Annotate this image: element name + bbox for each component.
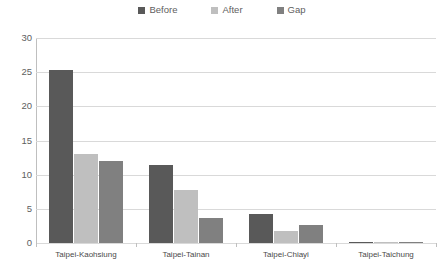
legend-label-before: Before (149, 5, 177, 15)
legend-label-gap: Gap (288, 5, 306, 15)
x-tick-mark (36, 243, 37, 247)
bar-after[interactable] (74, 154, 98, 243)
bar-gap[interactable] (399, 242, 423, 243)
bar-group (236, 38, 336, 243)
y-tick-label: 25 (6, 67, 32, 77)
legend-item-before[interactable]: Before (138, 5, 177, 15)
bar-before[interactable] (49, 70, 73, 243)
plot-area (36, 38, 436, 243)
y-tick-label: 0 (6, 238, 32, 248)
y-axis-labels: 302520151050 (0, 0, 32, 277)
chart-legend: Before After Gap (0, 2, 444, 18)
bar-group (36, 38, 136, 243)
y-tick-label: 10 (6, 170, 32, 180)
bar-before[interactable] (249, 214, 273, 243)
x-tick-mark (336, 243, 337, 247)
legend-item-after[interactable]: After (211, 5, 242, 15)
bar-after[interactable] (174, 190, 198, 243)
legend-swatch-gap-icon (277, 7, 284, 14)
y-tick-label: 15 (6, 136, 32, 146)
x-tick-mark (236, 243, 237, 247)
bar-gap[interactable] (99, 161, 123, 243)
x-tick-mark (436, 243, 437, 247)
bar-group (136, 38, 236, 243)
legend-label-after: After (222, 5, 242, 15)
x-tick-label: Taipei-Tainan (136, 250, 236, 260)
caption-strip (0, 268, 444, 277)
y-tick-label: 20 (6, 101, 32, 111)
bar-gap[interactable] (199, 218, 223, 243)
bar-group (336, 38, 436, 243)
x-tick-label: Taipei-Taichung (336, 250, 436, 260)
bar-after[interactable] (374, 242, 398, 243)
bar-before[interactable] (149, 165, 173, 243)
y-tick-label: 30 (6, 33, 32, 43)
bar-after[interactable] (274, 231, 298, 243)
bar-chart: Before After Gap 302520151050 Taipei-Kao… (0, 0, 444, 277)
x-tick-mark (136, 243, 137, 247)
legend-swatch-before-icon (138, 7, 145, 14)
x-tick-label: Taipei-Kaohsiung (36, 250, 136, 260)
bar-before[interactable] (349, 242, 373, 243)
y-tick-label: 5 (6, 204, 32, 214)
legend-swatch-after-icon (211, 7, 218, 14)
legend-item-gap[interactable]: Gap (277, 5, 306, 15)
x-tick-label: Taipei-Chiayi (236, 250, 336, 260)
bar-gap[interactable] (299, 225, 323, 243)
